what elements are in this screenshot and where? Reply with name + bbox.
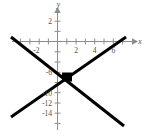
y-tick-label-neg6: -6 <box>46 68 52 77</box>
y-tick-label-neg10: -10 <box>42 89 52 98</box>
y-tick-label-neg14: -14 <box>42 109 52 118</box>
x-axis-arrow-icon <box>132 38 138 44</box>
y-tick-label-2: 2 <box>48 17 52 26</box>
y-tick-label-neg12: -12 <box>42 99 52 108</box>
x-axis-name-label: x <box>137 37 142 46</box>
x-tick-label-6: 6 <box>111 46 115 55</box>
axis-group <box>12 7 138 130</box>
intersection-point-marker <box>62 73 72 82</box>
coordinate-plane-svg: -2 2 4 6 2 -6 -10 -12 -14 x y <box>0 0 145 136</box>
x-tick-label-4: 4 <box>93 46 97 55</box>
x-tick-label-2: 2 <box>74 46 78 55</box>
x-tick-label-neg2: -2 <box>33 46 39 55</box>
y-axis-name-label: y <box>56 0 61 9</box>
linear-system-graph: -2 2 4 6 2 -6 -10 -12 -14 x y <box>0 0 145 136</box>
